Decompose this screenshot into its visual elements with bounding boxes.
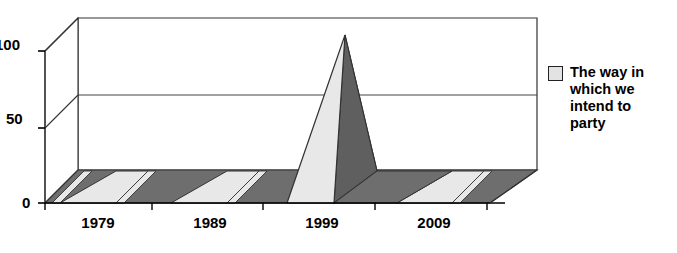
x-axis-label-1979: 1979: [58, 214, 138, 231]
y-axis-label-0: 0: [22, 194, 30, 211]
legend-entry-label: The way in which we intend to party: [570, 64, 662, 132]
y-axis-label-50: 50: [6, 110, 23, 127]
x-axis-label-2009: 2009: [394, 214, 474, 231]
x-axis-label-1999: 1999: [282, 214, 362, 231]
legend-swatch-icon: [548, 66, 563, 81]
x-axis-label-1989: 1989: [170, 214, 250, 231]
y-axis-label-100: 100: [0, 36, 20, 53]
chart-container: 100 50 0 1979 1989 1999 2009 The way in …: [0, 0, 677, 253]
chart-legend: The way in which we intend to party: [548, 64, 662, 132]
x-tick-marks: [45, 203, 487, 210]
